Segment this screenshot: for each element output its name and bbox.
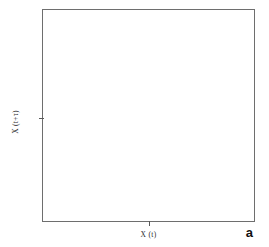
panel-label: a [246, 226, 253, 239]
contour-plot [43, 10, 256, 223]
plot-frame [42, 9, 255, 222]
figure-root: X (t+τ) X (t) a [0, 0, 269, 247]
x-axis-label: X (t) [42, 230, 255, 239]
y-axis-tick-0 [39, 118, 44, 119]
contour-level-5 [99, 70, 196, 163]
contour-level-0 [71, 42, 228, 204]
contour-level-3 [85, 61, 210, 181]
x-axis-tick-0 [149, 221, 150, 226]
y-axis-label: X (t+τ) [9, 92, 23, 152]
